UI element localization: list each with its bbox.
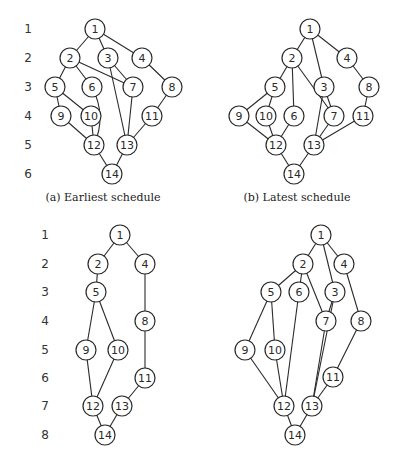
node-label: 14 bbox=[105, 168, 119, 181]
node-14: 14 bbox=[285, 425, 305, 445]
node-8: 8 bbox=[135, 311, 155, 331]
graph-b: 1245389106711121314(b) Latest schedule bbox=[229, 19, 379, 204]
node-label: 7 bbox=[323, 315, 330, 328]
row-label: 7 bbox=[41, 399, 49, 413]
row-label: 8 bbox=[41, 428, 49, 442]
node-label: 8 bbox=[169, 81, 176, 94]
node-label: 2 bbox=[289, 52, 296, 65]
node-label: 1 bbox=[307, 23, 314, 36]
row-label: 1 bbox=[24, 22, 32, 36]
node-13: 13 bbox=[302, 396, 322, 416]
node-label: 5 bbox=[268, 286, 275, 299]
node-label: 13 bbox=[305, 400, 319, 413]
node-label: 10 bbox=[84, 110, 98, 123]
node-5: 5 bbox=[261, 282, 281, 302]
node-6: 6 bbox=[82, 77, 102, 97]
node-label: 8 bbox=[142, 315, 149, 328]
edge-7-13 bbox=[312, 321, 326, 406]
node-4: 4 bbox=[337, 48, 357, 68]
node-7: 7 bbox=[316, 311, 336, 331]
node-14: 14 bbox=[102, 164, 122, 184]
node-label: 3 bbox=[105, 52, 112, 65]
node-label: 4 bbox=[139, 52, 146, 65]
node-7: 7 bbox=[123, 77, 143, 97]
node-1: 1 bbox=[300, 19, 320, 39]
node-label: 14 bbox=[287, 168, 301, 181]
node-label: 11 bbox=[356, 110, 370, 123]
node-label: 8 bbox=[358, 315, 365, 328]
node-5: 5 bbox=[265, 77, 285, 97]
node-9: 9 bbox=[235, 340, 255, 360]
node-label: 12 bbox=[87, 139, 101, 152]
caption-a: (a) Earliest schedule bbox=[45, 191, 160, 204]
node-9: 9 bbox=[76, 340, 96, 360]
row-label: 5 bbox=[41, 343, 49, 357]
node-label: 14 bbox=[288, 429, 302, 442]
node-10: 10 bbox=[256, 106, 276, 126]
node-label: 12 bbox=[86, 400, 100, 413]
node-label: 2 bbox=[300, 258, 307, 271]
node-label: 9 bbox=[236, 110, 243, 123]
node-label: 9 bbox=[58, 110, 65, 123]
node-1: 1 bbox=[85, 19, 105, 39]
node-label: 7 bbox=[130, 81, 137, 94]
node-label: 4 bbox=[341, 258, 348, 271]
node-label: 13 bbox=[120, 139, 134, 152]
node-label: 8 bbox=[366, 81, 373, 94]
node-label: 5 bbox=[272, 81, 279, 94]
node-label: 7 bbox=[331, 110, 338, 123]
row-label: 4 bbox=[24, 109, 32, 123]
row-label: 6 bbox=[24, 167, 32, 181]
nodes: 1245891011121314 bbox=[76, 225, 155, 445]
node-label: 1 bbox=[92, 23, 99, 36]
node-label: 4 bbox=[344, 52, 351, 65]
node-label: 2 bbox=[95, 258, 102, 271]
node-label: 11 bbox=[145, 110, 159, 123]
graph-d: 1245637891011121314 bbox=[235, 225, 371, 445]
node-3: 3 bbox=[98, 48, 118, 68]
node-12: 12 bbox=[83, 396, 103, 416]
node-2: 2 bbox=[293, 254, 313, 274]
node-label: 6 bbox=[296, 286, 303, 299]
row-label: 4 bbox=[41, 314, 49, 328]
node-label: 9 bbox=[83, 344, 90, 357]
row-label: 3 bbox=[41, 285, 49, 299]
node-4: 4 bbox=[132, 48, 152, 68]
schedule-diagram-figure: 12345612345678 1234567891011121314(a) Ea… bbox=[0, 0, 401, 453]
node-12: 12 bbox=[84, 135, 104, 155]
node-13: 13 bbox=[304, 135, 324, 155]
node-label: 13 bbox=[307, 139, 321, 152]
edge-3-13 bbox=[312, 292, 335, 406]
node-11: 11 bbox=[135, 368, 155, 388]
nodes: 1245637891011121314 bbox=[235, 225, 371, 445]
row-label: 5 bbox=[24, 138, 32, 152]
node-11: 11 bbox=[353, 106, 373, 126]
node-label: 10 bbox=[259, 110, 273, 123]
row-labels-top: 123456 bbox=[24, 22, 32, 181]
node-8: 8 bbox=[351, 311, 371, 331]
node-label: 6 bbox=[89, 81, 96, 94]
node-14: 14 bbox=[95, 425, 115, 445]
node-label: 6 bbox=[291, 110, 298, 123]
node-8: 8 bbox=[162, 77, 182, 97]
node-3: 3 bbox=[314, 77, 334, 97]
edge-6-12 bbox=[284, 292, 299, 406]
row-label: 3 bbox=[24, 80, 32, 94]
node-label: 1 bbox=[318, 229, 325, 242]
node-8: 8 bbox=[359, 77, 379, 97]
node-2: 2 bbox=[282, 48, 302, 68]
node-2: 2 bbox=[88, 254, 108, 274]
row-labels-bottom: 12345678 bbox=[41, 228, 49, 442]
node-1: 1 bbox=[110, 225, 130, 245]
node-label: 9 bbox=[242, 344, 249, 357]
node-3: 3 bbox=[325, 282, 345, 302]
node-label: 11 bbox=[326, 371, 340, 384]
node-11: 11 bbox=[323, 367, 343, 387]
node-10: 10 bbox=[108, 340, 128, 360]
node-label: 4 bbox=[142, 258, 149, 271]
node-label: 10 bbox=[111, 344, 125, 357]
node-label: 5 bbox=[93, 286, 100, 299]
node-7: 7 bbox=[324, 106, 344, 126]
node-label: 3 bbox=[332, 286, 339, 299]
node-label: 12 bbox=[277, 400, 291, 413]
